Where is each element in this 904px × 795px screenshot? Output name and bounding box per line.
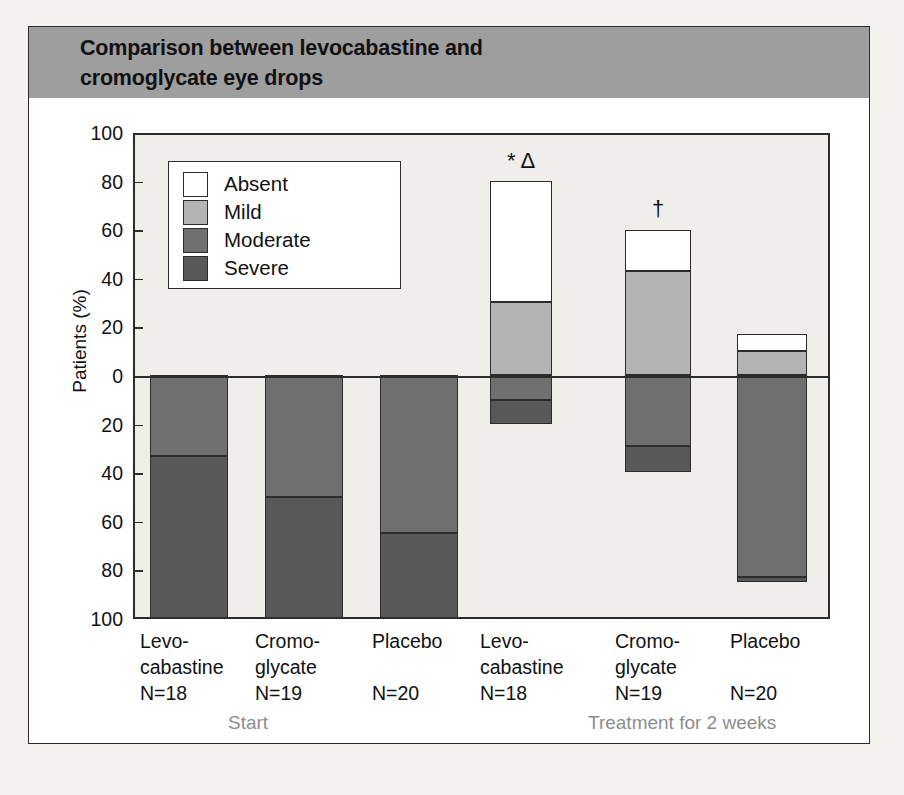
- y-tick-mark: [133, 522, 143, 524]
- y-tick-mark: [133, 570, 143, 572]
- bar-segment-moderate: [490, 375, 552, 399]
- bar-segment-moderate: [737, 375, 807, 577]
- bar-placebo-start: [380, 376, 458, 619]
- y-tick-mark: [133, 182, 143, 184]
- bar-segment-severe: [150, 456, 228, 619]
- bar-segment-absent: [490, 181, 552, 303]
- x-label-line: N=20: [372, 680, 442, 706]
- x-label-line: Cromo-: [615, 628, 680, 654]
- bar-annotation-levocabastine-treatment: * Δ: [507, 148, 535, 174]
- bar-annotation-cromoglycate-treatment: †: [652, 196, 664, 222]
- x-label-line: Cromo-: [255, 628, 320, 654]
- x-label-3: Levo-cabastineN=18: [480, 628, 563, 706]
- y-tick-label: 100: [63, 608, 123, 631]
- bar-segment-moderate: [380, 375, 458, 533]
- y-tick-mark: [133, 473, 143, 475]
- legend-item-absent: Absent: [183, 171, 288, 197]
- x-label-line: Levo-: [140, 628, 223, 654]
- bar-levocabastine-start: [150, 376, 228, 619]
- legend-swatch-mild: [183, 200, 208, 225]
- zero-baseline: [133, 376, 830, 378]
- y-tick-label: 60: [63, 510, 123, 533]
- y-tick-label: 100: [63, 122, 123, 145]
- y-tick-label: 0: [63, 365, 123, 388]
- x-label-2: PlaceboN=20: [372, 628, 442, 706]
- legend-swatch-absent: [183, 172, 208, 197]
- bar-segment-mild: [737, 351, 807, 375]
- bar-segment-mild: [625, 271, 691, 375]
- legend-item-mild: Mild: [183, 199, 262, 225]
- bar-cromoglycate-treatment: [625, 230, 691, 473]
- x-label-1: Cromo-glycateN=19: [255, 628, 320, 706]
- bar-segment-moderate: [265, 375, 343, 497]
- y-tick-mark: [133, 425, 143, 427]
- x-label-line: N=18: [480, 680, 563, 706]
- x-label-line: N=20: [730, 680, 800, 706]
- y-tick-label: 80: [63, 559, 123, 582]
- x-label-line: [372, 654, 442, 680]
- x-label-line: cabastine: [140, 654, 223, 680]
- legend-label-severe: Severe: [224, 258, 289, 279]
- bar-segment-severe: [380, 533, 458, 618]
- bar-segment-absent: [625, 230, 691, 271]
- x-label-line: Placebo: [372, 628, 442, 654]
- legend-item-moderate: Moderate: [183, 227, 311, 253]
- y-tick-label: 20: [63, 316, 123, 339]
- legend: AbsentMildModerateSevere: [168, 161, 401, 289]
- x-label-line: N=18: [140, 680, 223, 706]
- figure-title: Comparison between levocabastine and cro…: [80, 33, 780, 93]
- bar-placebo-treatment: [737, 335, 807, 583]
- bar-cromoglycate-start: [265, 376, 343, 619]
- bar-segment-severe: [737, 577, 807, 582]
- legend-label-moderate: Moderate: [224, 230, 311, 251]
- legend-label-mild: Mild: [224, 202, 262, 223]
- bar-segment-severe: [265, 497, 343, 619]
- y-tick-label: 60: [63, 219, 123, 242]
- x-label-line: Placebo: [730, 628, 800, 654]
- legend-item-severe: Severe: [183, 255, 289, 281]
- x-label-line: [730, 654, 800, 680]
- legend-label-absent: Absent: [224, 174, 288, 195]
- y-tick-mark: [133, 327, 143, 329]
- bar-levocabastine-treatment: [490, 182, 552, 425]
- title-line-2: cromoglycate eye drops: [80, 63, 780, 93]
- bar-segment-moderate: [625, 375, 691, 445]
- bar-segment-mild: [490, 302, 552, 375]
- x-label-line: glycate: [615, 654, 680, 680]
- x-label-line: N=19: [615, 680, 680, 706]
- y-tick-label: 40: [63, 462, 123, 485]
- x-label-4: Cromo-glycateN=19: [615, 628, 680, 706]
- legend-swatch-severe: [183, 256, 208, 281]
- figure-page: Comparison between levocabastine and cro…: [0, 0, 904, 795]
- title-line-1: Comparison between levocabastine and: [80, 33, 780, 63]
- legend-swatch-moderate: [183, 228, 208, 253]
- x-label-0: Levo-cabastineN=18: [140, 628, 223, 706]
- bar-segment-absent: [737, 334, 807, 351]
- bar-segment-moderate: [150, 375, 228, 455]
- x-label-line: cabastine: [480, 654, 563, 680]
- x-label-line: N=19: [255, 680, 320, 706]
- y-tick-label: 40: [63, 267, 123, 290]
- y-tick-mark: [133, 230, 143, 232]
- y-tick-label: 20: [63, 413, 123, 436]
- x-label-line: Levo-: [480, 628, 563, 654]
- group-label-start: Start: [228, 712, 268, 734]
- x-label-line: glycate: [255, 654, 320, 680]
- bar-segment-severe: [490, 400, 552, 424]
- group-label-treatment-for-2-weeks: Treatment for 2 weeks: [588, 712, 776, 734]
- bar-segment-severe: [625, 446, 691, 473]
- y-tick-mark: [133, 279, 143, 281]
- y-tick-label: 80: [63, 170, 123, 193]
- x-label-5: PlaceboN=20: [730, 628, 800, 706]
